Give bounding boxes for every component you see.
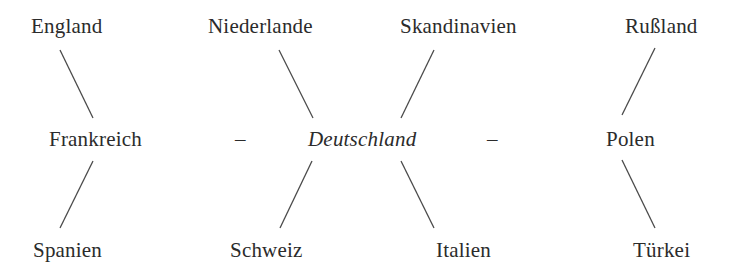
line-skandinavien-deutschland: [401, 50, 434, 118]
label-frankreich: Frankreich: [49, 127, 142, 151]
dash-left: –: [235, 127, 246, 151]
label-skandinavien: Skandinavien: [400, 14, 517, 38]
label-russland: Rußland: [625, 14, 698, 38]
label-england: England: [31, 14, 102, 38]
label-schweiz: Schweiz: [230, 238, 303, 262]
line-niederlande-deutschland: [279, 50, 313, 118]
label-italien: Italien: [436, 238, 491, 262]
label-tuerkei: Türkei: [633, 238, 690, 262]
line-deutschland-italien: [401, 161, 434, 228]
label-spanien: Spanien: [33, 238, 102, 262]
line-russland-polen: [622, 48, 655, 115]
line-polen-tuerkei: [622, 160, 655, 228]
line-england-frankreich: [60, 50, 93, 118]
label-polen: Polen: [606, 127, 655, 151]
line-deutschland-schweiz: [280, 161, 312, 228]
dash-right: –: [487, 127, 498, 151]
line-frankreich-spanien: [60, 161, 93, 228]
label-niederlande: Niederlande: [208, 14, 313, 38]
label-deutschland: Deutschland: [308, 127, 416, 151]
